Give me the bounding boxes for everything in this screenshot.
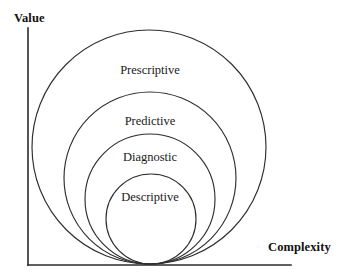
analytics-maturity-diagram: Value Complexity Prescriptive Predictive… <box>0 0 350 280</box>
x-axis-title: Complexity <box>268 240 331 255</box>
ring-label-predictive: Predictive <box>125 114 176 129</box>
ring-label-descriptive: Descriptive <box>121 190 179 205</box>
ring-label-diagnostic: Diagnostic <box>123 150 177 165</box>
ring-label-prescriptive: Prescriptive <box>120 63 180 78</box>
diagram-canvas <box>0 0 350 280</box>
ring-descriptive <box>106 174 196 264</box>
y-axis-title: Value <box>14 11 45 26</box>
